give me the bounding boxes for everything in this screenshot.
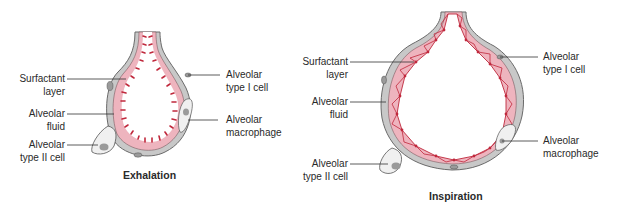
label-type-i-cell-inspiration: Alveolar type I cell [543, 51, 585, 76]
label-surfactant-layer-inspiration: Surfactant layer [302, 56, 348, 81]
label-alveolar-fluid-exhalation: Alveolar fluid [29, 108, 65, 133]
inspiration-alveolus [350, 12, 538, 173]
label-type-ii-cell-exhalation: Alveolar type II cell [20, 139, 65, 164]
label-macrophage-inspiration: Alveolar macrophage [543, 135, 599, 160]
label-type-i-cell-exhalation: Alveolar type I cell [226, 69, 268, 94]
label-type-ii-cell-inspiration: Alveolar type II cell [303, 158, 348, 183]
caption-exhalation: Exhalation [123, 169, 176, 181]
exhalation-alveolus [67, 32, 220, 157]
label-macrophage-exhalation: Alveolar macrophage [226, 114, 282, 139]
label-surfactant-layer-exhalation: Surfactant layer [19, 73, 65, 98]
label-alveolar-fluid-inspiration: Alveolar fluid [312, 96, 348, 121]
caption-inspiration: Inspiration [429, 190, 483, 202]
